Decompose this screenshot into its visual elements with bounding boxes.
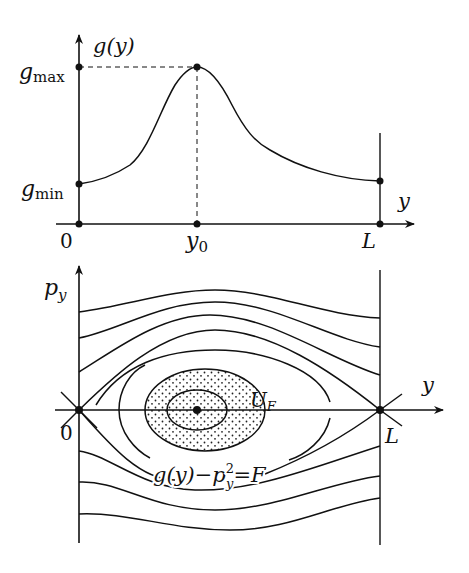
peak-dot: [194, 64, 201, 71]
gmax-dot: [76, 64, 83, 71]
gmax-label: gmax: [19, 59, 65, 86]
bottom-y-axis-label: y: [421, 373, 435, 397]
gmin-label: gmin: [21, 176, 64, 203]
y0-dot: [194, 221, 201, 228]
bottom-L-label: L: [384, 424, 399, 448]
top-L-label: L: [361, 229, 376, 253]
gmin-dot: [76, 181, 83, 188]
saddle-L-stroke: [380, 394, 402, 410]
center-dot: [193, 406, 201, 414]
L-dot: [377, 221, 384, 228]
bottom-origin-label: 0: [60, 421, 73, 445]
orbit-upper-1: [79, 290, 380, 318]
py-axis-label: py: [44, 275, 67, 304]
gL-dot: [377, 178, 384, 185]
top-y-axis-label: g(y): [93, 34, 135, 58]
y0-label: y0: [185, 228, 208, 256]
top-x-axis-label: y: [397, 189, 411, 213]
top-panel: g(y) y gmax gmin 0 y0 L: [19, 34, 414, 256]
top-origin-label: 0: [60, 229, 73, 253]
orbit-left-arc: [119, 365, 145, 410]
saddle-0-dot: [75, 406, 83, 414]
uf-label: UF: [250, 388, 277, 414]
bottom-panel: py y 0 L UF g(y)−p2y=F: [44, 266, 443, 545]
origin-dot: [76, 221, 83, 228]
g-curve: [79, 67, 380, 184]
orbit-upper-2: [79, 302, 380, 347]
saddle-L-dot: [376, 406, 384, 414]
level-set-label: g(y)−p2y=F: [153, 461, 267, 491]
orbit-lower-3: [79, 498, 380, 530]
diagram-canvas: g(y) y gmax gmin 0 y0 L: [0, 0, 469, 573]
